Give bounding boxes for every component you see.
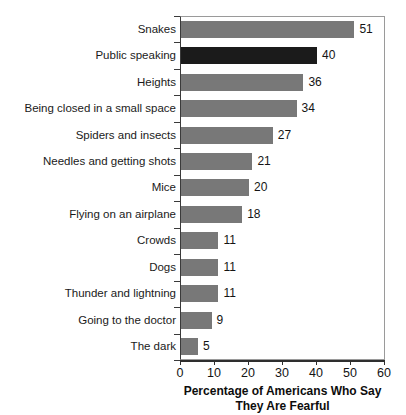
category-label: Public speaking (0, 49, 176, 62)
table-row: Heights36 (0, 69, 406, 95)
category-label: Going to the doctor (0, 314, 176, 327)
x-axis-tick-label: 10 (207, 366, 221, 380)
x-axis-tick-label: 60 (377, 366, 391, 380)
table-row: Mice20 (0, 175, 406, 201)
bar-value-label: 11 (223, 287, 235, 300)
bar-value-label: 11 (223, 261, 235, 274)
table-row: Going to the doctor9 (0, 307, 406, 333)
bar-container: 20 (181, 175, 267, 201)
x-axis-tick-label: 50 (343, 366, 357, 380)
bar-value-label: 21 (257, 155, 270, 168)
bar-value-label: 34 (302, 102, 315, 115)
bar-value-label: 20 (254, 181, 267, 194)
x-axis-tick-label: 30 (275, 366, 289, 380)
bar (181, 100, 297, 117)
table-row: Needles and getting shots21 (0, 148, 406, 174)
bar-container: 21 (181, 148, 271, 174)
table-row: Spiders and insects27 (0, 122, 406, 148)
category-axis-tick (174, 42, 180, 43)
bar-value-label: 27 (278, 129, 291, 142)
category-label: Flying on an airplane (0, 208, 176, 221)
table-row: The dark5 (0, 334, 406, 360)
bar-container: 11 (181, 281, 236, 307)
category-label: Needles and getting shots (0, 155, 176, 168)
bar-container: 11 (181, 228, 236, 254)
category-label: Thunder and lightning (0, 287, 176, 300)
bar (181, 338, 198, 355)
bar (181, 259, 218, 276)
category-axis-tick (174, 69, 180, 70)
bar-value-label: 9 (217, 314, 224, 327)
category-axis-tick (174, 95, 180, 96)
category-label: Mice (0, 181, 176, 194)
category-label: Being closed in a small space (0, 102, 176, 115)
bar (181, 153, 252, 170)
bar-value-label: 5 (203, 340, 210, 353)
category-axis-tick (174, 281, 180, 282)
table-row: Snakes51 (0, 16, 406, 42)
bar-container: 9 (181, 307, 223, 333)
category-axis-tick (174, 122, 180, 123)
bar-container: 5 (181, 334, 210, 360)
x-axis-tick (282, 360, 283, 365)
category-axis-tick (174, 228, 180, 229)
bar (181, 21, 354, 38)
bar-container: 51 (181, 16, 373, 42)
table-row: Thunder and lightning11 (0, 281, 406, 307)
table-row: Flying on an airplane18 (0, 201, 406, 227)
x-axis-tick-label: 0 (177, 366, 184, 380)
bar-container: 27 (181, 122, 291, 148)
bar-container: 18 (181, 201, 261, 227)
x-axis-tick (248, 360, 249, 365)
table-row: Dogs11 (0, 254, 406, 280)
category-axis-tick (174, 16, 180, 17)
bar (181, 206, 242, 223)
category-label: Snakes (0, 23, 176, 36)
x-axis-title-line-2: They Are Fearful (180, 399, 385, 414)
bar (181, 312, 212, 329)
category-axis-tick (174, 201, 180, 202)
x-axis-tick (350, 360, 351, 365)
x-axis-title: Percentage of Americans Who Say They Are… (180, 384, 385, 414)
x-axis-title-line-1: Percentage of Americans Who Say (180, 384, 385, 399)
category-label: The dark (0, 340, 176, 353)
category-axis-tick (174, 307, 180, 308)
bar-value-label: 11 (223, 234, 235, 247)
category-axis-tick (174, 334, 180, 335)
x-axis-tick-label: 40 (309, 366, 323, 380)
category-axis-tick (174, 148, 180, 149)
category-axis-tick (174, 254, 180, 255)
bar (181, 285, 218, 302)
bar-container: 11 (181, 254, 236, 280)
fear-percentage-bar-chart: Snakes51Public speaking40Heights36Being … (0, 0, 406, 415)
category-label: Spiders and insects (0, 129, 176, 142)
bar-value-label: 40 (322, 49, 335, 62)
bar (181, 179, 249, 196)
table-row: Public speaking40 (0, 42, 406, 68)
bar (181, 232, 218, 249)
category-axis-tick (174, 175, 180, 176)
category-label: Heights (0, 76, 176, 89)
bar-value-label: 36 (308, 76, 321, 89)
table-row: Crowds11 (0, 228, 406, 254)
bar (181, 127, 273, 144)
table-row: Being closed in a small space34 (0, 95, 406, 121)
category-label: Crowds (0, 234, 176, 247)
x-axis-tick (384, 360, 385, 365)
bar-value-label: 51 (359, 23, 372, 36)
bar-container: 40 (181, 42, 335, 68)
bar-highlighted (181, 47, 317, 64)
bar (181, 74, 303, 91)
x-axis-tick (214, 360, 215, 365)
x-axis-tick (180, 360, 181, 365)
bar-value-label: 18 (247, 208, 260, 221)
bar-container: 34 (181, 95, 315, 121)
bar-container: 36 (181, 69, 322, 95)
x-axis-tick (316, 360, 317, 365)
category-label: Dogs (0, 261, 176, 274)
x-axis-tick-label: 20 (241, 366, 255, 380)
